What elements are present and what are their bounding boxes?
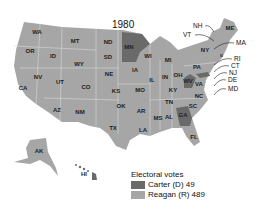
state-label-tn: TN bbox=[165, 99, 173, 105]
callout-line bbox=[205, 26, 214, 32]
us-electoral-map: WAORCAIDNVMTWYUTCOAZNMNDSDNEKSOKTXMNIAMO… bbox=[0, 0, 259, 216]
state-label-nm: NM bbox=[75, 109, 84, 115]
state-label-ia: IA bbox=[132, 67, 139, 73]
state-label-co: CO bbox=[82, 84, 91, 90]
state-ri bbox=[220, 54, 223, 57]
state-label-sd: SD bbox=[104, 54, 113, 60]
callout-md: MD bbox=[228, 85, 238, 92]
carter-swatch bbox=[131, 181, 145, 189]
state-label-ar: AR bbox=[137, 108, 146, 114]
legend-item-reagan: Reagan (R) 489 bbox=[131, 190, 205, 200]
state-label-wi: WI bbox=[144, 53, 152, 59]
state-label-la: LA bbox=[139, 127, 148, 133]
state-label-wa: WA bbox=[32, 29, 42, 35]
callout-vt: VT bbox=[183, 31, 191, 38]
callout-line bbox=[214, 66, 229, 72]
reagan-swatch bbox=[131, 191, 145, 199]
state-label-mn: MN bbox=[124, 44, 133, 50]
state-label-va: VA bbox=[195, 81, 204, 87]
state-label-nc: NC bbox=[195, 93, 204, 99]
state-label-ne: NE bbox=[105, 71, 113, 77]
state-label-tx: TX bbox=[109, 125, 117, 131]
callout-ma: MA bbox=[236, 39, 246, 46]
legend-label-carter: Carter (D) 49 bbox=[148, 180, 195, 190]
state-label-ny: NY bbox=[201, 47, 209, 53]
state-label-me: ME bbox=[226, 25, 235, 31]
callout-line bbox=[214, 80, 226, 86]
legend-item-carter: Carter (D) 49 bbox=[131, 180, 205, 190]
state-label-az: AZ bbox=[53, 107, 61, 113]
state-shapes bbox=[14, 18, 238, 180]
state-label-in: IN bbox=[162, 74, 168, 80]
callout-line bbox=[214, 89, 226, 95]
state-label-nv: NV bbox=[34, 74, 42, 80]
state-label-mi: MI bbox=[165, 57, 172, 63]
state-label-ky: KY bbox=[169, 87, 177, 93]
callout-ct: CT bbox=[231, 62, 240, 69]
legend-heading: Electoral votes bbox=[131, 170, 205, 180]
state-label-ms: MS bbox=[154, 115, 163, 121]
state-label-il: IL bbox=[149, 77, 155, 83]
state-ak bbox=[14, 138, 58, 176]
callout-line bbox=[214, 73, 227, 79]
state-label-mo: MO bbox=[135, 87, 145, 93]
state-label-ga: GA bbox=[179, 112, 189, 118]
state-label-ok: OK bbox=[117, 103, 127, 109]
state-label-nd: ND bbox=[104, 39, 113, 45]
state-label-fl: FL bbox=[190, 134, 198, 140]
state-label-oh: OH bbox=[174, 72, 183, 78]
state-label-ut: UT bbox=[56, 79, 64, 85]
state-label-wv: WV bbox=[183, 78, 193, 84]
legend-label-reagan: Reagan (R) 489 bbox=[148, 190, 205, 200]
state-label-ak: AK bbox=[35, 148, 44, 154]
callout-nh: NH bbox=[193, 22, 203, 29]
state-label-pa: PA bbox=[193, 64, 202, 70]
callout-de: DE bbox=[228, 76, 238, 83]
state-label-or: OR bbox=[26, 48, 36, 54]
state-label-ca: CA bbox=[19, 85, 28, 91]
state-label-ks: KS bbox=[112, 88, 120, 94]
legend: Electoral votes Carter (D) 49 Reagan (R)… bbox=[131, 170, 205, 200]
state-label-sc: SC bbox=[189, 103, 198, 109]
state-label-id: ID bbox=[50, 53, 57, 59]
state-label-wy: WY bbox=[74, 61, 84, 67]
callout-ri: RI bbox=[234, 55, 241, 62]
state-label-hi: HI bbox=[81, 171, 87, 177]
state-label-al: AL bbox=[165, 114, 173, 120]
callout-nj: NJ bbox=[229, 69, 237, 76]
state-label-mt: MT bbox=[71, 38, 80, 44]
